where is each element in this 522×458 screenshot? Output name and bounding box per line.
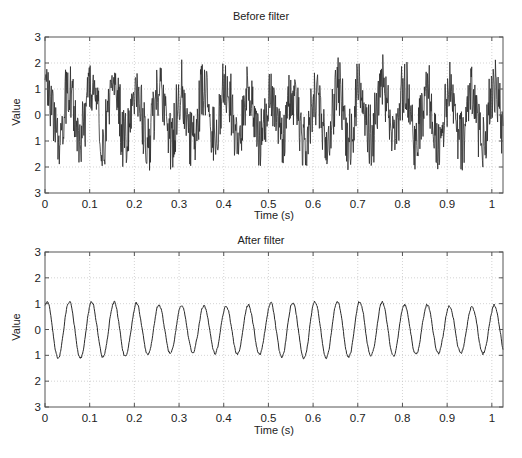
y-tick-label: 3 <box>35 187 41 199</box>
x-tick-label: 0 <box>42 412 48 424</box>
y-tick-label: 2 <box>35 375 41 387</box>
x-tick-label: 0.5 <box>260 198 276 210</box>
data-line <box>45 301 503 359</box>
y-tick-label: 2 <box>35 161 41 173</box>
x-tick-label: 1 <box>489 198 495 210</box>
x-tick-label: 0 <box>42 198 48 210</box>
y-tick-label: 0 <box>35 324 41 336</box>
x-tick-label: 0.1 <box>82 198 98 210</box>
x-tick-label: 0.5 <box>260 412 276 424</box>
x-tick-label: 0.9 <box>439 198 455 210</box>
y-tick-label: 1 <box>35 135 41 147</box>
x-axis-ticks: 00.10.20.30.40.50.60.70.80.91 <box>42 252 495 424</box>
x-tick-label: 0.2 <box>126 198 142 210</box>
y-tick-label: 1 <box>35 349 41 361</box>
x-tick-label: 0.9 <box>439 412 455 424</box>
x-tick-label: 0.4 <box>216 412 233 424</box>
x-tick-label: 0.7 <box>350 198 366 210</box>
y-tick-label: 2 <box>35 272 41 284</box>
x-tick-label: 0.3 <box>171 198 187 210</box>
y-tick-label: 3 <box>35 246 41 258</box>
x-tick-label: 1 <box>489 412 495 424</box>
x-tick-label: 0.6 <box>305 198 321 210</box>
x-tick-label: 0.8 <box>394 412 410 424</box>
y-tick-label: 1 <box>35 83 41 95</box>
y-tick-label: 2 <box>35 57 41 69</box>
y-tick-label: 3 <box>35 401 41 413</box>
plot-area: 00.10.20.30.40.50.60.70.80.913210123 <box>0 225 522 458</box>
x-tick-label: 0.8 <box>394 198 410 210</box>
plot-after-filter: After filter Value Time (s) 00.10.20.30.… <box>0 225 522 458</box>
plot-area: 00.10.20.30.40.50.60.70.80.913210123 <box>0 0 522 225</box>
x-tick-label: 0.1 <box>82 412 98 424</box>
y-tick-label: 3 <box>35 31 41 43</box>
x-tick-label: 0.7 <box>350 412 366 424</box>
x-tick-label: 0.6 <box>305 412 321 424</box>
x-tick-label: 0.4 <box>216 198 233 210</box>
x-tick-label: 0.3 <box>171 412 187 424</box>
data-line <box>45 55 503 171</box>
y-tick-label: 0 <box>35 109 41 121</box>
grid <box>45 252 503 407</box>
y-tick-label: 1 <box>35 298 41 310</box>
x-tick-label: 0.2 <box>126 412 142 424</box>
plot-before-filter: Before filter Value Time (s) 00.10.20.30… <box>0 0 522 225</box>
